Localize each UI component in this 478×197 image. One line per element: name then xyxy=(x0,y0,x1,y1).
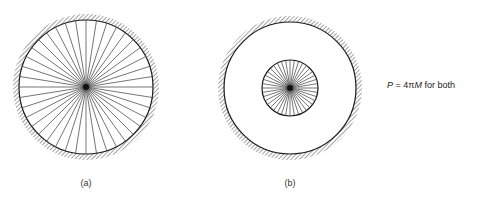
radial-field-line xyxy=(267,88,290,104)
radial-field-line xyxy=(290,88,306,111)
radial-field-line xyxy=(86,87,140,126)
radial-field-line xyxy=(274,65,290,88)
radial-field-line xyxy=(86,87,133,134)
radial-field-line xyxy=(32,87,86,126)
radial-field-line xyxy=(86,23,107,87)
panel-a-cavity xyxy=(13,14,159,160)
radial-field-line xyxy=(86,87,125,141)
radial-field-line xyxy=(290,72,313,88)
radial-field-line xyxy=(290,65,306,88)
equation-rhs-variable: M xyxy=(415,80,423,90)
center-point xyxy=(83,84,89,90)
radial-field-line xyxy=(86,33,125,87)
radial-field-line xyxy=(47,87,86,141)
panel-b-label: (b) xyxy=(285,178,296,188)
radial-field-line xyxy=(86,87,107,151)
radial-field-line xyxy=(65,23,86,87)
radial-field-line xyxy=(267,72,290,88)
radial-field-line xyxy=(86,40,133,87)
equation-suffix: for both xyxy=(422,80,455,90)
radial-field-line xyxy=(22,87,86,108)
radial-field-line xyxy=(86,66,150,87)
radial-field-line xyxy=(274,88,290,111)
diagram-figure xyxy=(0,0,478,197)
equation-text: P = 4πM for both xyxy=(387,80,455,90)
radial-field-line xyxy=(39,40,86,87)
radial-field-line xyxy=(290,88,313,104)
panel-b-cavity xyxy=(218,16,362,160)
radial-field-line xyxy=(65,87,86,151)
center-point xyxy=(287,85,293,91)
radial-field-line xyxy=(86,87,150,108)
radial-field-line xyxy=(22,66,86,87)
radial-field-line xyxy=(47,33,86,87)
panel-a-label: (a) xyxy=(81,178,92,188)
radial-field-line xyxy=(86,48,140,87)
radial-field-line xyxy=(39,87,86,134)
equation-equals: = 4π xyxy=(393,80,414,90)
radial-field-line xyxy=(32,48,86,87)
